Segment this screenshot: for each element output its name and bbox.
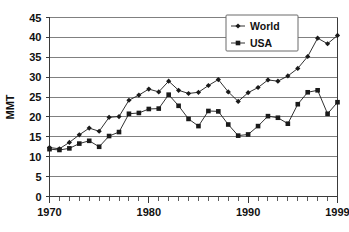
y-tick-label-35: 35 bbox=[29, 51, 41, 63]
square-marker-icon bbox=[236, 41, 241, 46]
data-point-usa-1993 bbox=[276, 115, 281, 120]
chart-container: 051015202530354045 1970198019901999 MMT … bbox=[0, 0, 349, 232]
line-chart: 051015202530354045 1970198019901999 MMT … bbox=[0, 0, 349, 232]
data-point-usa-1998 bbox=[325, 111, 330, 116]
y-tick-label-45: 45 bbox=[29, 12, 41, 24]
data-point-usa-1980 bbox=[147, 107, 152, 112]
y-tick-label-40: 40 bbox=[29, 31, 41, 43]
data-point-usa-1992 bbox=[266, 114, 271, 119]
data-point-usa-1973 bbox=[77, 141, 82, 146]
data-point-usa-1981 bbox=[156, 106, 161, 111]
legend-label-usa: USA bbox=[250, 37, 273, 49]
data-point-usa-1984 bbox=[186, 117, 191, 122]
data-point-usa-1979 bbox=[137, 111, 142, 116]
data-point-usa-1985 bbox=[196, 124, 201, 129]
data-point-usa-1970 bbox=[47, 147, 52, 152]
y-tick-label-15: 15 bbox=[29, 131, 41, 143]
data-point-usa-1996 bbox=[305, 90, 310, 95]
data-point-usa-1991 bbox=[256, 124, 261, 129]
x-tick-label-1980: 1980 bbox=[137, 206, 161, 218]
data-point-usa-1971 bbox=[57, 148, 62, 153]
data-point-usa-1995 bbox=[295, 102, 300, 107]
legend-label-world: World bbox=[250, 20, 280, 32]
data-point-usa-1990 bbox=[246, 132, 251, 137]
x-tick-label-1990: 1990 bbox=[236, 206, 260, 218]
y-axis-label: MMT bbox=[4, 94, 16, 119]
y-tick-label-10: 10 bbox=[29, 151, 41, 163]
y-tick-label-30: 30 bbox=[29, 71, 41, 83]
data-point-usa-1982 bbox=[166, 92, 171, 97]
data-point-usa-1989 bbox=[236, 133, 241, 138]
data-point-usa-1976 bbox=[107, 134, 112, 139]
data-point-usa-1975 bbox=[97, 144, 102, 149]
data-point-usa-1983 bbox=[176, 104, 181, 109]
data-point-usa-1974 bbox=[87, 139, 92, 144]
data-point-usa-1972 bbox=[67, 146, 72, 151]
data-point-usa-1988 bbox=[226, 122, 231, 127]
y-tick-label-20: 20 bbox=[29, 111, 41, 123]
data-point-usa-1994 bbox=[286, 121, 291, 126]
data-point-usa-1999 bbox=[335, 100, 340, 105]
data-point-usa-1997 bbox=[315, 88, 320, 93]
y-axis-title: MMT bbox=[4, 94, 16, 119]
x-tick-label-1999: 1999 bbox=[325, 206, 349, 218]
y-tick-label-0: 0 bbox=[35, 191, 41, 203]
y-tick-label-5: 5 bbox=[35, 171, 41, 183]
chart-legend[interactable]: WorldUSA bbox=[226, 15, 298, 51]
data-point-usa-1977 bbox=[117, 130, 122, 135]
data-point-usa-1978 bbox=[127, 111, 132, 116]
x-tick-label-1970: 1970 bbox=[37, 206, 61, 218]
data-point-usa-1986 bbox=[206, 109, 211, 114]
data-point-usa-1987 bbox=[216, 109, 221, 114]
y-tick-label-25: 25 bbox=[29, 91, 41, 103]
